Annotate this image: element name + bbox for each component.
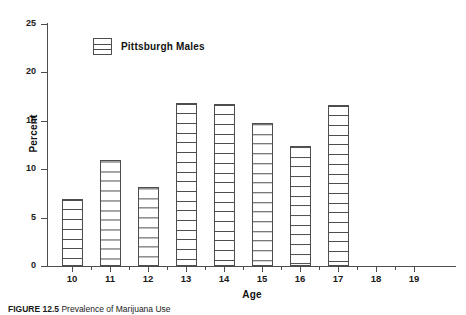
y-axis-tick: [41, 218, 48, 219]
x-axis-tick-label: 12: [133, 274, 163, 284]
x-axis-minor-tick: [281, 266, 282, 270]
x-axis-tick: [300, 266, 301, 272]
bar: [252, 123, 273, 266]
y-axis-tick-label: 25: [14, 19, 36, 28]
x-axis-tick-label: 19: [399, 274, 429, 284]
x-axis-tick-label: 11: [95, 274, 125, 284]
x-axis-minor-tick: [357, 266, 358, 270]
bar: [328, 105, 349, 266]
y-axis-tick-label: 20: [14, 67, 36, 76]
x-axis-minor-tick: [395, 266, 396, 270]
x-axis-minor-tick: [243, 266, 244, 270]
x-axis-minor-tick: [91, 266, 92, 270]
figure-caption-text: Prevalence of Marijuana Use: [61, 304, 170, 314]
y-axis-tick-label: 5: [14, 213, 36, 222]
x-axis-tick: [72, 266, 73, 272]
x-axis-tick: [186, 266, 187, 272]
bar: [290, 146, 311, 266]
x-axis-minor-tick: [167, 266, 168, 270]
x-axis-tick: [148, 266, 149, 272]
x-axis-tick-label: 13: [171, 274, 201, 284]
y-axis-tick-label: 0: [14, 261, 36, 270]
x-axis-minor-tick: [319, 266, 320, 270]
bar: [214, 104, 235, 266]
x-axis-tick-label: 16: [285, 274, 315, 284]
bar: [138, 187, 159, 266]
x-axis-tick-label: 17: [323, 274, 353, 284]
x-axis-minor-tick: [129, 266, 130, 270]
y-axis-tick: [41, 121, 48, 122]
bar: [176, 103, 197, 266]
x-axis-tick-label: 15: [247, 274, 277, 284]
figure-caption: FIGURE 12.5 Prevalence of Marijuana Use: [8, 304, 466, 314]
legend-entry-label: Pittsburgh Males: [121, 41, 205, 52]
striped-box-swatch-icon: [93, 38, 112, 55]
x-axis-tick: [224, 266, 225, 272]
x-axis-tick: [376, 266, 377, 272]
y-axis-tick: [41, 72, 48, 73]
y-axis-tick: [41, 24, 48, 25]
y-axis-tick: [41, 266, 48, 267]
x-axis-title: Age: [48, 289, 456, 300]
x-axis-tick-label: 14: [209, 274, 239, 284]
x-axis-minor-tick: [205, 266, 206, 270]
y-axis-tick: [41, 169, 48, 170]
x-axis-tick-label: 18: [361, 274, 391, 284]
bar: [62, 199, 83, 266]
chart-legend: Pittsburgh Males: [93, 38, 205, 55]
figure-chart: 0510152025 10111213141516171819 Percent …: [0, 0, 466, 315]
bar-series-pittsburgh-males: [48, 24, 456, 266]
bar: [100, 160, 121, 266]
y-axis-title: Percent: [28, 89, 39, 179]
x-axis-tick: [338, 266, 339, 272]
x-axis-tick-label: 10: [57, 274, 87, 284]
x-axis-tick: [262, 266, 263, 272]
figure-number: FIGURE 12.5: [8, 304, 59, 314]
x-axis-tick: [110, 266, 111, 272]
x-axis-tick: [414, 266, 415, 272]
